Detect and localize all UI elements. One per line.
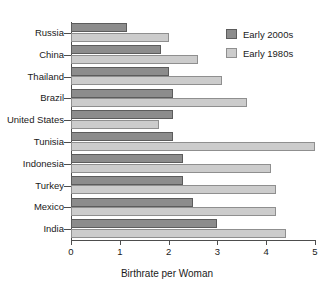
bar-brazil-early-1980s xyxy=(71,98,247,107)
legend-label-early-1980s: Early 1980s xyxy=(243,48,293,59)
y-tick-india xyxy=(64,229,71,230)
x-tick-label-4: 4 xyxy=(256,246,276,257)
y-tick-china xyxy=(64,55,71,56)
category-axis-labels: RussiaChinaThailandBrazilUnited StatesTu… xyxy=(0,22,64,240)
bar-turkey-early-1980s xyxy=(71,185,276,194)
bar-india-early-2000s xyxy=(71,219,217,228)
y-tick-united-states xyxy=(64,120,71,121)
bar-china-early-1980s xyxy=(71,55,198,64)
legend-item-early-1980s: Early 1980s xyxy=(226,45,293,61)
y-tick-russia xyxy=(64,33,71,34)
bar-india-early-1980s xyxy=(71,229,286,238)
category-label-thailand: Thailand xyxy=(28,72,64,82)
bar-russia-early-2000s xyxy=(71,23,127,32)
category-label-united-states: United States xyxy=(7,115,64,125)
x-tick-4 xyxy=(266,240,267,245)
x-tick-label-2: 2 xyxy=(159,246,179,257)
bar-tunisia-early-2000s xyxy=(71,132,173,141)
y-tick-mexico xyxy=(64,207,71,208)
y-tick-tunisia xyxy=(64,142,71,143)
x-tick-3 xyxy=(217,240,218,245)
bar-indonesia-early-2000s xyxy=(71,154,183,163)
category-label-india: India xyxy=(43,224,64,234)
bar-tunisia-early-1980s xyxy=(71,142,315,151)
bar-thailand-early-1980s xyxy=(71,76,222,85)
x-axis-title: Birthrate per Woman xyxy=(0,268,334,279)
bar-united-states-early-1980s xyxy=(71,120,159,129)
y-tick-thailand xyxy=(64,77,71,78)
category-label-russia: Russia xyxy=(35,28,64,38)
bar-indonesia-early-1980s xyxy=(71,164,271,173)
bar-turkey-early-2000s xyxy=(71,176,183,185)
chart-legend: Early 2000s Early 1980s xyxy=(226,26,293,64)
category-label-china: China xyxy=(39,50,64,60)
legend-swatch-icon-early-2000s xyxy=(226,29,237,39)
category-label-brazil: Brazil xyxy=(40,93,64,103)
x-tick-label-1: 1 xyxy=(110,246,130,257)
x-tick-0 xyxy=(71,240,72,245)
x-tick-label-3: 3 xyxy=(207,246,227,257)
category-label-tunisia: Tunisia xyxy=(34,137,64,147)
bar-china-early-2000s xyxy=(71,45,161,54)
legend-swatch-icon-early-1980s xyxy=(226,48,237,58)
bar-united-states-early-2000s xyxy=(71,110,173,119)
bar-russia-early-1980s xyxy=(71,33,169,42)
x-tick-5 xyxy=(315,240,316,245)
legend-item-early-2000s: Early 2000s xyxy=(226,26,293,42)
category-label-turkey: Turkey xyxy=(35,181,64,191)
x-tick-1 xyxy=(120,240,121,245)
bar-thailand-early-2000s xyxy=(71,67,169,76)
x-tick-label-5: 5 xyxy=(305,246,325,257)
bar-mexico-early-1980s xyxy=(71,207,276,216)
y-tick-indonesia xyxy=(64,164,71,165)
bar-brazil-early-2000s xyxy=(71,89,173,98)
category-label-indonesia: Indonesia xyxy=(23,159,64,169)
x-tick-2 xyxy=(169,240,170,245)
x-tick-label-0: 0 xyxy=(61,246,81,257)
x-axis-line xyxy=(71,240,316,241)
birthrate-bar-chart: RussiaChinaThailandBrazilUnited StatesTu… xyxy=(0,0,334,295)
y-tick-turkey xyxy=(64,186,71,187)
category-label-mexico: Mexico xyxy=(34,202,64,212)
legend-label-early-2000s: Early 2000s xyxy=(243,29,293,40)
y-tick-brazil xyxy=(64,98,71,99)
bar-mexico-early-2000s xyxy=(71,198,193,207)
